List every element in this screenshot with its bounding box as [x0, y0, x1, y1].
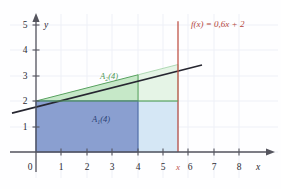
marker-x-label: x — [175, 162, 180, 172]
coordinate-plane-diagram: 0 1 2 3 4 5 6 7 8 x x 1 2 3 4 5 y A2(4) … — [0, 0, 281, 189]
y-tick-label-1: 1 — [23, 122, 28, 132]
x-axis-name: x — [255, 162, 261, 172]
x-tick-label-6: 6 — [188, 162, 193, 172]
x-tick-label-2: 2 — [85, 162, 90, 172]
figure-canvas: 0 1 2 3 4 5 6 7 8 x x 1 2 3 4 5 y A2(4) … — [0, 0, 281, 189]
x-tick-label-3: 3 — [110, 162, 115, 172]
function-label: f(x) = 0,6x + 2 — [191, 19, 245, 29]
region-a2-label-tail: (4) — [108, 71, 118, 81]
region-a2-label: A2(4) — [99, 71, 118, 82]
region-a1-label-tail: (4) — [100, 114, 110, 124]
x-tick-label-0: 0 — [28, 162, 33, 172]
y-tick-label-2: 2 — [23, 96, 28, 106]
region-extension-light — [138, 101, 178, 152]
x-tick-label-5: 5 — [161, 162, 166, 172]
x-tick-label-8: 8 — [237, 162, 242, 172]
x-tick-label-1: 1 — [59, 162, 64, 172]
x-tick-label-7: 7 — [212, 162, 217, 172]
y-tick-label-3: 3 — [23, 71, 28, 81]
y-tick-label-5: 5 — [23, 20, 28, 30]
y-axis-name: y — [43, 20, 49, 30]
region-a1-rectangle — [36, 101, 138, 152]
y-tick-label-4: 4 — [23, 45, 28, 55]
x-tick-label-4: 4 — [136, 162, 141, 172]
region-a1-label: A1(4) — [91, 114, 110, 125]
